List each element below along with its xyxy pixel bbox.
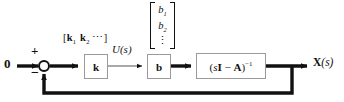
b-vector-vertical-dots-icon: ⋮ [157,34,168,48]
x-of-s-argument: (s) [321,56,333,68]
gain-k2-subscript: 2 [86,38,89,45]
b-vector-entry-1: b1 [158,3,167,19]
b-vector-matrix: b1 b2 ⋮ [150,2,175,49]
gain-close-bracket: ] [104,32,108,43]
resolvent-block: (sI − A)−1 [196,53,266,79]
summing-junction-node [38,60,50,72]
resolvent-minus-operator: − [225,60,231,72]
summing-junction-plus-label: + [31,44,38,57]
b-vector-entries: b1 b2 ⋮ [155,2,170,49]
gain-k1-subscript: 1 [73,38,76,45]
gain-ellipsis-icon: ⋯ [92,32,103,43]
b-vector-right-bracket [170,2,175,49]
resolvent-block-label: (sI − A)−1 [210,60,253,73]
resolvent-inverse-exponent: −1 [245,60,252,67]
resolvent-identity-matrix: I [218,60,222,72]
input-matrix-block-b-label: b [156,61,162,73]
gain-block-k: k [84,54,108,79]
input-matrix-block-b: b [147,54,171,79]
b-vector-entry-2: b2 [158,19,167,35]
gain-row-vector-label: [k1 k2 ⋯] [63,33,107,46]
u-of-s-signal-label: U(s) [112,44,132,55]
input-signal-label: 0 [4,57,11,70]
x-of-s-output-label: X(s) [313,57,333,69]
b-column-vector-label: b1 b2 ⋮ [150,2,175,52]
block-diagram-canvas: 0 + − [k1 k2 ⋯] b1 b2 ⋮ U(s) X(s) k b (s… [0,0,344,102]
gain-block-k-label: k [93,61,99,73]
